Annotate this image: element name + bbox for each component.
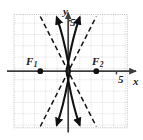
focus-label-f2-subscript: 2 xyxy=(100,60,104,69)
focus-label-f1-subscript: 1 xyxy=(34,60,38,69)
hyperbola-figure: y x 5 5 F1 F2 xyxy=(0,0,143,140)
focus-point-f2 xyxy=(93,68,99,74)
focus-label-f2: F2 xyxy=(92,56,104,68)
x-axis-tick-label-5: 5 xyxy=(118,74,124,85)
focus-label-f1-main: F xyxy=(26,55,33,67)
y-axis-tick-label-5: 5 xyxy=(70,17,76,28)
focus-label-f1: F1 xyxy=(26,56,38,68)
focus-point-f1 xyxy=(37,68,43,74)
focus-label-f2-main: F xyxy=(92,55,99,67)
y-axis-label: y xyxy=(63,6,68,17)
x-axis-label: x xyxy=(133,76,139,87)
